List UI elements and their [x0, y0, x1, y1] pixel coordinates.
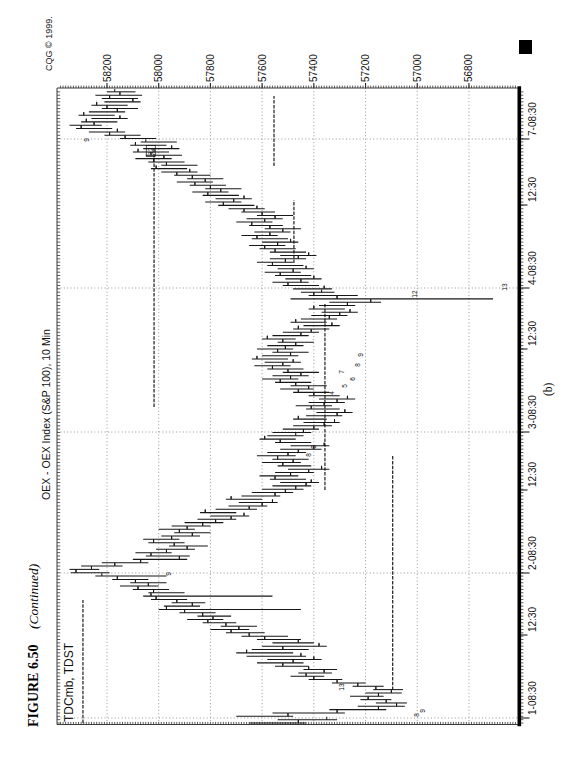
td-count-label: 9 — [165, 572, 172, 576]
plot-area: 5820058000578005760057400572005700056800… — [57, 40, 538, 726]
time-tick-label: 12:30 — [527, 321, 538, 346]
price-tick-label: 57600 — [257, 54, 268, 82]
time-tick-label: 3-08:30 — [527, 395, 538, 429]
td-count-label: 5 — [341, 384, 348, 388]
studies-label: TDCmb, TDST — [62, 642, 76, 722]
td-count-label: 6 — [349, 377, 356, 381]
time-tick-label: 2-08:30 — [527, 536, 538, 570]
price-tick-label: 57200 — [360, 54, 371, 82]
vendor-credit: CQG © 1999. — [44, 16, 54, 71]
figure-caption-bold: FIGURE 6.50 — [26, 645, 41, 727]
time-tick-label: 12:30 — [527, 177, 538, 202]
td-count-label: 12 — [411, 290, 418, 298]
td-count-label: 9 — [83, 138, 90, 142]
time-tick-label: 1-08:30 — [527, 681, 538, 715]
td-count-label: 4 — [328, 391, 335, 395]
price-tick-label: 57800 — [205, 54, 216, 82]
td-count-label: 9 — [310, 445, 317, 449]
rotated-chart-stage: FIGURE 6.50 (Continued) OEX - OEX Index … — [0, 0, 573, 773]
td-count-label: 7 — [338, 370, 345, 374]
td-count-label: 9 — [357, 353, 364, 357]
time-tick-label: 12:30 — [527, 607, 538, 632]
td-count-label: 12 — [147, 147, 154, 155]
td-count-label: 13 — [338, 683, 345, 691]
td-count-label: 9 — [419, 709, 426, 713]
td-count-label: 13 — [501, 283, 508, 291]
price-tick-label: 58200 — [102, 54, 113, 82]
subfigure-label: (b) — [542, 382, 555, 396]
price-tick-label: 57000 — [412, 54, 423, 82]
chart-title: OEX - OEX Index (S&P 100), 10 Min — [40, 329, 52, 500]
td-count-label: 8 — [413, 713, 420, 717]
ohlc-chart: FIGURE 6.50 (Continued) OEX - OEX Index … — [0, 0, 573, 773]
price-tick-label: 58000 — [153, 54, 164, 82]
time-tick-label: 4-08:30 — [527, 251, 538, 285]
td-count-label: 8 — [354, 363, 361, 367]
td-count-label: 8 — [305, 453, 312, 457]
time-tick-label: 12:30 — [527, 462, 538, 487]
book-page: FIGURE 6.50 (Continued) OEX - OEX Index … — [0, 0, 573, 773]
price-tick-label: 57400 — [308, 54, 319, 82]
corner-ornament — [519, 40, 532, 54]
figure-caption-italic: (Continued) — [26, 563, 41, 629]
time-tick-label: 7-08:30 — [527, 102, 538, 136]
price-tick-label: 56800 — [463, 54, 474, 82]
